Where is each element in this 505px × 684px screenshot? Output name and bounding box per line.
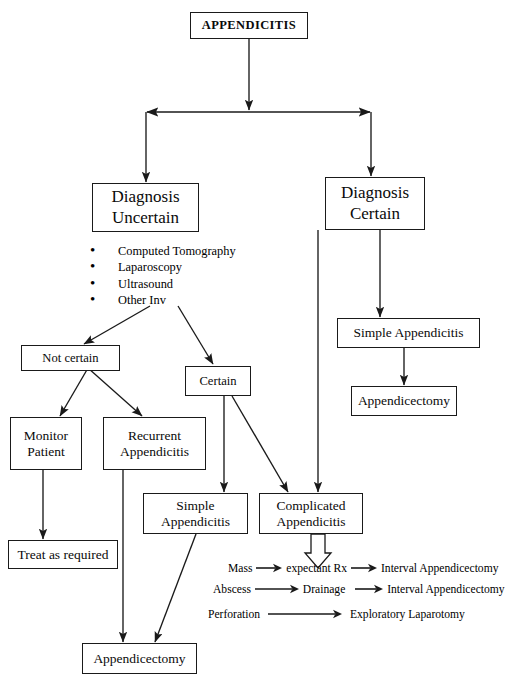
list-item: Other Inv [84, 292, 236, 308]
pathway-mass-condition: Mass [228, 562, 252, 575]
node-not-certain[interactable]: Not certain [21, 345, 120, 371]
wire-inv-to-certain [178, 306, 213, 364]
node-simple-appendicitis-left-line1: Simple [176, 498, 214, 514]
node-treat-as-required[interactable]: Treat as required [8, 540, 118, 569]
node-simple-appendicitis-left[interactable]: Simple Appendicitis [143, 493, 248, 534]
pathway-abscess-followup: Interval Appendicectomy [387, 583, 505, 596]
node-simple-appendicitis-left-line2: Appendicitis [161, 514, 230, 530]
node-certain-small[interactable]: Certain [185, 366, 251, 396]
pathway-perforation-condition: Perforation [208, 608, 260, 621]
node-monitor-patient[interactable]: Monitor Patient [10, 417, 82, 470]
wire-inv-to-not-certain [84, 306, 150, 344]
investigation-list: Computed Tomography Laparoscopy Ultrasou… [84, 243, 236, 309]
pathway-row-perforation: Perforation Exploratory Laparotomy [208, 607, 465, 621]
wire-certain-to-complicated [232, 396, 288, 492]
pathway-row-abscess: Abscess Drainage Interval Appendicectomy [213, 582, 505, 596]
node-complicated-appendicitis-line2: Appendicitis [277, 514, 346, 530]
node-appendicectomy-right[interactable]: Appendicectomy [351, 386, 457, 416]
list-item: Computed Tomography [84, 243, 236, 259]
node-appendicectomy-bottom[interactable]: Appendicectomy [82, 643, 197, 674]
pathway-row-mass: Mass expectant Rx Interval Appendicectom… [228, 561, 498, 575]
node-simple-appendicitis-right[interactable]: Simple Appendicitis [337, 318, 480, 348]
list-item: Laparoscopy [84, 259, 236, 275]
node-simple-appendicitis-right-label: Simple Appendicitis [354, 325, 464, 341]
node-certain-small-label: Certain [199, 374, 236, 389]
node-diagnosis-uncertain[interactable]: Diagnosis Uncertain [92, 183, 199, 232]
node-recurrent-appendicitis-line2: Appendicitis [120, 444, 189, 460]
node-complicated-appendicitis-line1: Complicated [277, 498, 346, 514]
arrow-right-icon [255, 562, 283, 574]
node-appendicitis-root[interactable]: APPENDICITIS [190, 12, 308, 39]
arrow-right-icon [354, 583, 384, 595]
node-diagnosis-certain-line2: Certain [350, 204, 400, 224]
wire-notcertain-to-monitor [60, 368, 88, 416]
node-treat-as-required-label: Treat as required [18, 547, 109, 563]
node-diagnosis-certain-line1: Diagnosis [341, 183, 409, 203]
pathway-mass-followup: Interval Appendicectomy [381, 562, 499, 575]
node-appendicectomy-bottom-label: Appendicectomy [93, 651, 185, 667]
pathway-abscess-treatment: Drainage [303, 583, 346, 596]
node-appendicectomy-right-label: Appendicectomy [358, 393, 450, 409]
list-item: Ultrasound [84, 276, 236, 292]
pathway-mass-treatment: expectant Rx [286, 562, 347, 575]
node-diagnosis-certain[interactable]: Diagnosis Certain [325, 177, 425, 230]
node-recurrent-appendicitis-line1: Recurrent [128, 428, 181, 444]
pathway-abscess-condition: Abscess [213, 583, 251, 596]
node-diagnosis-uncertain-line2: Uncertain [112, 208, 179, 228]
node-appendicitis-root-label: APPENDICITIS [202, 18, 296, 33]
node-monitor-patient-line1: Monitor [24, 428, 68, 444]
wire-notcertain-to-recurrent [88, 368, 142, 416]
node-not-certain-label: Not certain [42, 351, 98, 366]
arrow-right-icon [350, 562, 378, 574]
node-diagnosis-uncertain-line1: Diagnosis [112, 187, 180, 207]
node-recurrent-appendicitis[interactable]: Recurrent Appendicitis [103, 417, 206, 470]
wire-simple-left-to-appendicectomy [155, 534, 196, 642]
arrow-right-icon [254, 583, 300, 595]
node-complicated-appendicitis[interactable]: Complicated Appendicitis [259, 493, 363, 534]
arrow-right-icon [267, 608, 343, 620]
node-monitor-patient-line2: Patient [27, 444, 65, 460]
pathway-perforation-treatment: Exploratory Laparotomy [350, 608, 465, 621]
